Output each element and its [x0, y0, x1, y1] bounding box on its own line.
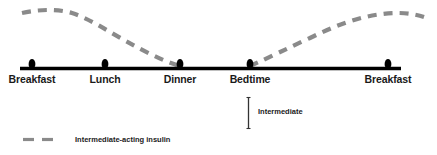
bedtime-dose-curve [250, 13, 424, 66]
marker-breakfast-morning [29, 59, 36, 69]
axis-label-breakfast-next: Breakfast [365, 74, 412, 85]
intermediate-dose-indicator [247, 97, 251, 129]
axis-label-lunch: Lunch [90, 74, 121, 85]
axis-label-dinner: Dinner [164, 74, 197, 85]
morning-dose-curve [22, 10, 183, 67]
insulin-action-chart: Breakfast Lunch Dinner Bedtime Breakfast… [0, 0, 437, 155]
intermediate-acting-insulin-curve [22, 10, 424, 67]
axis-label-bedtime: Bedtime [230, 74, 271, 85]
legend-label-intermediate-acting-insulin: Intermediate-acting insulin [75, 136, 170, 144]
axis-label-breakfast-morning: Breakfast [9, 74, 56, 85]
marker-bedtime [247, 59, 254, 69]
marker-dinner [177, 59, 184, 69]
marker-breakfast-next [385, 59, 392, 69]
annotation-label-intermediate: Intermediate [258, 108, 303, 116]
marker-lunch [102, 59, 109, 69]
